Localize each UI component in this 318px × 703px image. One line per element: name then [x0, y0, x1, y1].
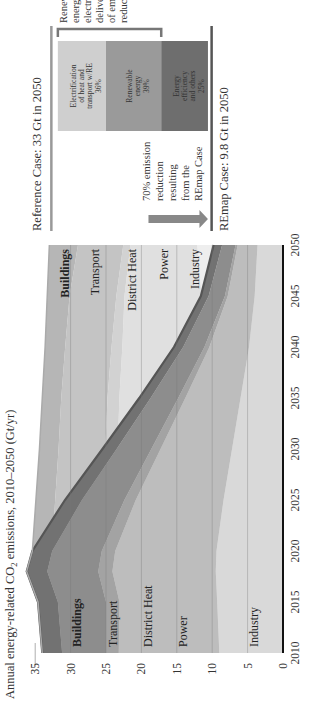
bracket-note-line: of emission	[106, 0, 117, 23]
series-label-right: Transport	[88, 248, 102, 295]
series-label-left: Buildings	[70, 598, 84, 647]
x-tick-label: 2020	[289, 539, 301, 562]
x-tick-label: 2045	[289, 284, 301, 307]
series-label-left: Power	[176, 616, 190, 647]
bracket-note-line: deliver 75%	[94, 0, 105, 23]
y-tick-label: 20	[135, 663, 147, 675]
y-tick-label: 15	[171, 663, 183, 675]
series-label-left: Transport	[106, 600, 120, 647]
x-tick-label: 2010	[289, 641, 301, 664]
reduction-note-line: from the	[180, 165, 191, 201]
breakdown-share: 39%	[142, 79, 151, 93]
series-label-right: Power	[157, 249, 171, 280]
series-label-left: Industry	[247, 607, 261, 647]
annotations: Reference Case: 33 Gt in 2050REmap Case:…	[30, 0, 230, 231]
breakdown-label: transport w/RE	[85, 63, 94, 109]
x-axis: 201020152020202520302035204020452050	[289, 233, 301, 664]
y-axis: 05101520253035	[29, 663, 289, 675]
reduction-note-line: resulting	[167, 164, 178, 201]
reduction-note-line: 70% emission	[141, 141, 152, 201]
y-tick-label: 0	[277, 663, 289, 669]
reduction-note-line: reduction	[154, 161, 165, 201]
x-tick-label: 2050	[289, 233, 301, 256]
x-tick-label: 2015	[289, 590, 301, 613]
chart-title: Annual energy-related CO2 emissions, 201…	[3, 410, 19, 699]
breakdown-label: and others	[188, 70, 197, 101]
chart-stage: Annual energy-related CO2 emissions, 201…	[0, 0, 318, 703]
breakdown-share: 36%	[94, 79, 103, 93]
arrow-down-icon	[148, 210, 207, 228]
y-tick-label: 10	[206, 663, 218, 675]
y-tick-label: 30	[65, 663, 77, 675]
y-tick-label: 5	[242, 663, 254, 669]
x-tick-label: 2035	[289, 386, 301, 409]
breakdown-share: 25%	[197, 79, 206, 93]
reference-case-label: Reference Case: 33 Gt in 2050	[30, 77, 44, 231]
remap-case-label: REmap Case: 9.8 Gt in 2050	[217, 87, 231, 231]
x-tick-label: 2040	[289, 335, 301, 358]
series-label-right: Industry	[188, 249, 202, 289]
series-label-right: Buildings	[58, 249, 72, 298]
bracket-note-line: energy and	[70, 0, 81, 23]
reduction-note-line: REmap Case	[193, 146, 204, 201]
x-tick-label: 2025	[289, 488, 301, 511]
series-label-right: District Heat	[125, 248, 139, 310]
series-label-left: District Heat	[141, 585, 155, 647]
y-tick-label: 25	[100, 663, 112, 675]
bracket-note-line: Renewable	[58, 0, 69, 23]
bracket-shape	[58, 29, 161, 37]
bracket-note-line: reductions	[118, 0, 129, 23]
breakdown-label: energy	[133, 76, 142, 97]
x-tick-label: 2030	[289, 437, 301, 460]
bracket-note-line: electrification	[82, 0, 93, 23]
y-tick-label: 35	[29, 663, 41, 675]
stacked-area-chart: Annual energy-related CO2 emissions, 201…	[0, 0, 318, 703]
